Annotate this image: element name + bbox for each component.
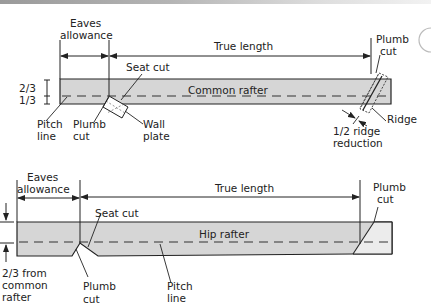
ridge-reduction-2: reduction bbox=[333, 137, 383, 149]
common-plumb-cut-1: Plumb bbox=[73, 118, 106, 130]
common-rafter-group: Eaves allowance True length Plumb cut Se… bbox=[19, 17, 417, 149]
hip-plumb-cut-1: Plumb bbox=[83, 280, 116, 292]
hip-plumb-cut-2: cut bbox=[83, 293, 100, 305]
common-pitch-line-1: Pitch bbox=[37, 118, 63, 130]
common-true-length-label: True length bbox=[213, 40, 273, 52]
rafter-diagram: Eaves allowance True length Plumb cut Se… bbox=[0, 0, 431, 305]
ridge-reduction-1: 1/2 ridge bbox=[333, 125, 380, 137]
hip-rafter-label: Hip rafter bbox=[199, 228, 250, 240]
common-plumb-cut-2: cut bbox=[73, 130, 90, 142]
hip-seat-cut-label: Seat cut bbox=[95, 207, 139, 219]
hip-from-common-2: common bbox=[2, 279, 48, 291]
hip-plumb-cut-top-2: cut bbox=[377, 193, 394, 205]
common-plumb-cut-top-2: cut bbox=[380, 45, 397, 57]
common-eaves-label-2: allowance bbox=[60, 29, 113, 41]
common-seat-cut-label: Seat cut bbox=[126, 61, 170, 73]
ratio-two-thirds: 2/3 bbox=[19, 82, 36, 94]
hip-plumb-cut-top-1: Plumb bbox=[373, 181, 406, 193]
hip-pitch-line-1: Pitch bbox=[167, 280, 193, 292]
ridge-label: Ridge bbox=[387, 113, 417, 125]
hip-from-common-3: rafter bbox=[2, 291, 32, 303]
common-pitch-line-2: line bbox=[37, 130, 56, 142]
common-plumb-cut-top-1: Plumb bbox=[376, 33, 409, 45]
hip-pitch-line-2: line bbox=[167, 292, 186, 304]
hip-from-common-1: 2/3 from bbox=[2, 267, 47, 279]
wall-plate-label-2: plate bbox=[143, 130, 170, 142]
page-marker-circle bbox=[419, 28, 431, 52]
hip-rafter-group: Eaves allowance True length Plumb cut Se… bbox=[0, 171, 406, 305]
ratio-one-third: 1/3 bbox=[19, 94, 36, 106]
hip-true-length-label: True length bbox=[214, 182, 274, 194]
common-rafter-label: Common rafter bbox=[188, 84, 268, 96]
wall-plate-label-1: Wall bbox=[143, 118, 165, 130]
hip-eaves-label-1: Eaves bbox=[27, 171, 58, 183]
common-eaves-label-1: Eaves bbox=[70, 17, 101, 29]
hip-eaves-label-2: allowance bbox=[17, 183, 70, 195]
